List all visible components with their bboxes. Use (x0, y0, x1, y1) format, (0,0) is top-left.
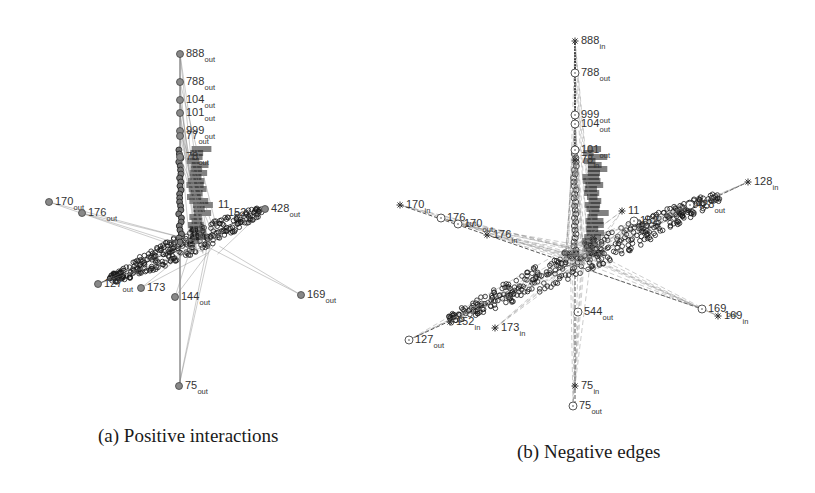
node-marker-icon (492, 325, 499, 332)
node-marker-icon (177, 133, 184, 140)
node-label-subscript: out (198, 158, 209, 167)
node-label: 170 (464, 217, 482, 229)
node-marker-icon (397, 202, 404, 209)
node-169-out: 169out (298, 288, 337, 305)
node-label-subscript: out (326, 296, 337, 305)
node-label-subscript: out (107, 214, 118, 223)
node-label-subscript: out (600, 151, 611, 160)
node-marker-icon (177, 97, 184, 104)
node-label: 75 (579, 399, 591, 411)
node-label: 788 (186, 75, 204, 87)
node-label: 544 (584, 305, 602, 317)
node-marker-icon (176, 383, 183, 390)
node-label-subscript: out (600, 74, 611, 83)
node-marker-icon (177, 110, 184, 117)
node-127-out: 127out (405, 333, 445, 350)
node-marker-icon (79, 210, 86, 217)
node-label: 152 (228, 206, 246, 218)
node-label-subscript: in (773, 183, 779, 192)
node-marker-icon (447, 319, 454, 326)
network-plot-b: 888in788out999out104out101out78in170in17… (380, 0, 815, 493)
node-75-out: 75out (569, 399, 603, 416)
node-144-out: 144out (172, 290, 211, 307)
node-label-subscript: out (198, 137, 209, 146)
node-75-in: 75in (572, 379, 600, 396)
node-label: 11 (628, 204, 639, 216)
node-label-subscript: out (205, 114, 216, 123)
node-label: 104 (581, 117, 599, 129)
node-label: 173 (501, 321, 519, 333)
node-label-subscript: in (520, 329, 526, 338)
node-label: 77 (186, 129, 198, 141)
node-marker-icon (298, 292, 305, 299)
node-788-out: 788out (571, 66, 611, 83)
node-label: 144 (181, 290, 199, 302)
node-label-subscript: out (123, 285, 134, 294)
node-label: 428 (271, 202, 289, 214)
node-marker-icon (177, 154, 184, 161)
node-label-subscript: out (197, 387, 208, 396)
node-label-subscript: out (205, 55, 216, 64)
node-label-subscript: out (715, 206, 726, 215)
node-label-subscript: in (425, 206, 431, 215)
node-label: 127 (415, 333, 433, 345)
node-marker-icon (619, 208, 626, 215)
node-173-in: 173in (492, 321, 526, 338)
node-label: 176 (88, 206, 106, 218)
node-label: 104 (186, 93, 204, 105)
node-label-subscript: out (603, 313, 614, 322)
node-marker-icon (715, 313, 722, 320)
node-marker-icon (177, 51, 184, 58)
node-marker-icon (138, 285, 145, 292)
node-label-subscript: in (512, 236, 518, 245)
node-label: 152 (640, 214, 658, 226)
node-label-subscript: out (591, 407, 602, 416)
node-label: 888 (581, 34, 599, 46)
node-label-subscript: in (593, 387, 599, 396)
node-176-out: 176out (79, 206, 118, 223)
node-173: 173 (138, 281, 166, 293)
node-11: 11 (619, 204, 640, 216)
node-marker-icon (46, 199, 53, 206)
node-label: 428 (696, 198, 714, 210)
caption-b: (b) Negative edges (517, 441, 661, 463)
node-label-subscript: in (743, 317, 749, 326)
node-label-subscript: out (205, 83, 216, 92)
node-label: 75 (581, 379, 593, 391)
node-label-subscript: out (600, 116, 611, 125)
node-label: 78 (186, 150, 198, 162)
node-label-subscript: out (205, 101, 216, 110)
node-label: 127 (104, 277, 122, 289)
node-label-subscript: in (593, 161, 599, 170)
node-label-subscript: out (600, 125, 611, 134)
node-888-in: 888in (572, 34, 606, 51)
node-marker-icon (484, 232, 491, 239)
node-marker-icon (262, 206, 269, 213)
node-marker-icon (572, 157, 579, 164)
network-plot-a: 888out788out104out101out999out77out78out… (0, 0, 400, 493)
node-label-subscript: in (600, 42, 606, 51)
node-152: 152 (228, 206, 246, 218)
node-428-out: 428out (262, 202, 301, 219)
node-marker-icon (745, 179, 752, 186)
node-label: 101 (186, 106, 204, 118)
node-170-out: 170out (46, 195, 85, 212)
node-label: 128 (754, 175, 772, 187)
node-label: 173 (147, 281, 165, 293)
node-label-subscript: out (290, 210, 301, 219)
node-170-in: 170in (397, 198, 431, 215)
node-label: 78 (581, 153, 593, 165)
node-label: 788 (581, 66, 599, 78)
node-128-in: 128in (745, 175, 779, 192)
node-label: 169 (307, 288, 325, 300)
node-marker-icon (95, 281, 102, 288)
node-label-subscript: in (475, 323, 481, 332)
node-label-subscript: out (200, 298, 211, 307)
node-marker-icon (572, 383, 579, 390)
panel-positive-interactions: 888out788out104out101out999out77out78out… (0, 0, 400, 493)
node-label: 75 (185, 379, 197, 391)
node-marker-icon (572, 38, 579, 45)
node-label: 170 (406, 198, 424, 210)
node-marker-icon (177, 79, 184, 86)
caption-a: (a) Positive interactions (98, 425, 278, 447)
